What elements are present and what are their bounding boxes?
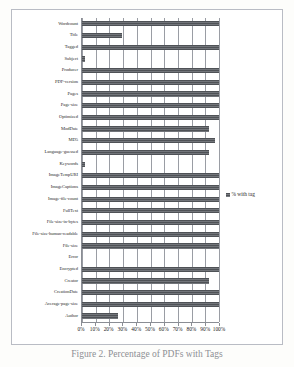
bar-row	[82, 53, 219, 65]
category-label: Tagged	[12, 41, 81, 53]
category-label: CreationDate	[12, 287, 81, 299]
x-axis-tick-label: 30%	[117, 327, 127, 332]
bar	[82, 33, 122, 38]
category-label: Encrypted	[12, 263, 81, 275]
category-label: FullText	[12, 205, 81, 217]
category-label: MD5	[12, 135, 81, 147]
gridline	[219, 18, 220, 322]
bar	[82, 126, 209, 131]
bar	[82, 56, 85, 61]
bar	[82, 103, 219, 108]
bar	[82, 208, 219, 213]
bar	[82, 302, 219, 307]
plot-area	[81, 18, 219, 322]
bar-row	[82, 41, 219, 53]
bar-row	[82, 65, 219, 77]
bar	[82, 290, 219, 295]
bar	[82, 162, 85, 167]
bar	[82, 21, 219, 26]
category-label: Producer	[12, 65, 81, 77]
bar-row	[82, 158, 219, 170]
bar	[82, 45, 219, 50]
plot-wrapper: WordcountTitleTaggedSubjectProducerPDF-v…	[12, 10, 282, 344]
bar	[82, 313, 118, 318]
bar-row	[82, 123, 219, 135]
bar-row	[82, 170, 219, 182]
bar-row	[82, 217, 219, 229]
x-axis-tick-label: 0%	[77, 327, 84, 332]
x-axis-tick-label: 50%	[145, 327, 155, 332]
bar-row	[82, 182, 219, 194]
category-label: File-size-in-bytes	[12, 217, 81, 229]
chart-legend: % with tag	[226, 192, 255, 197]
y-axis-category-labels: WordcountTitleTaggedSubjectProducerPDF-v…	[12, 18, 81, 322]
bar-row	[82, 193, 219, 205]
bar-row	[82, 18, 219, 30]
category-label: File-size	[12, 240, 81, 252]
category-label: Optimized	[12, 112, 81, 124]
bar-row	[82, 240, 219, 252]
category-label: Average-page-size	[12, 299, 81, 311]
category-label: Image-file-count	[12, 193, 81, 205]
category-label: Error	[12, 252, 81, 264]
bar-row	[82, 310, 219, 322]
x-axis-tick-label: 60%	[159, 327, 169, 332]
x-axis-tick-label: 20%	[104, 327, 114, 332]
bar-series	[82, 18, 219, 322]
bar-row	[82, 135, 219, 147]
bar	[82, 232, 219, 237]
category-label: Keywords	[12, 158, 81, 170]
category-label: ImageTempURI	[12, 170, 81, 182]
bar-row	[82, 30, 219, 42]
x-axis-tick-label: 80%	[186, 327, 196, 332]
bar-row	[82, 76, 219, 88]
bar	[82, 220, 219, 225]
bar	[82, 115, 219, 120]
figure-caption: Figure 2. Percentage of PDFs with Tags	[0, 349, 294, 360]
bar	[82, 80, 219, 85]
figure-container: WordcountTitleTaggedSubjectProducerPDF-v…	[0, 0, 294, 367]
bar	[82, 267, 219, 272]
bar-row	[82, 88, 219, 100]
bar	[82, 197, 219, 202]
bar	[82, 150, 209, 155]
chart-frame: WordcountTitleTaggedSubjectProducerPDF-v…	[11, 9, 283, 345]
category-label: ImageCaptions	[12, 182, 81, 194]
category-label: Pages	[12, 88, 81, 100]
category-label: Page-size	[12, 100, 81, 112]
category-label: Title	[12, 30, 81, 42]
x-axis-tick-label: 100%	[213, 327, 226, 332]
bar	[82, 91, 219, 96]
bar	[82, 278, 209, 283]
x-axis-tick-labels: 0%10%20%30%40%50%60%70%80%90%100%	[70, 327, 235, 337]
category-label: PDF-version	[12, 76, 81, 88]
category-label: Language-guessed	[12, 147, 81, 159]
legend-swatch-icon	[226, 193, 230, 197]
bar-row	[82, 228, 219, 240]
bar	[82, 243, 219, 248]
legend-entry-label: % with tag	[232, 192, 255, 197]
x-axis-tick-label: 70%	[173, 327, 183, 332]
x-axis-tick-label: 10%	[90, 327, 100, 332]
bar-row	[82, 205, 219, 217]
bar-row	[82, 299, 219, 311]
category-label: Wordcount	[12, 18, 81, 30]
bar	[82, 68, 219, 73]
bar-row	[82, 263, 219, 275]
category-label: Subject	[12, 53, 81, 65]
bar-row	[82, 112, 219, 124]
bar-row	[82, 287, 219, 299]
category-label: Author	[12, 310, 81, 322]
category-label: Creator	[12, 275, 81, 287]
x-axis-tick-label: 40%	[131, 327, 141, 332]
bar-row	[82, 100, 219, 112]
bar-row	[82, 252, 219, 264]
bar	[82, 173, 219, 178]
x-axis-tick-label: 90%	[200, 327, 210, 332]
category-label: File-size-human-readable	[12, 228, 81, 240]
category-label: ModDate	[12, 123, 81, 135]
bar-row	[82, 275, 219, 287]
bar	[82, 138, 215, 143]
bar-row	[82, 147, 219, 159]
bar	[82, 185, 219, 190]
